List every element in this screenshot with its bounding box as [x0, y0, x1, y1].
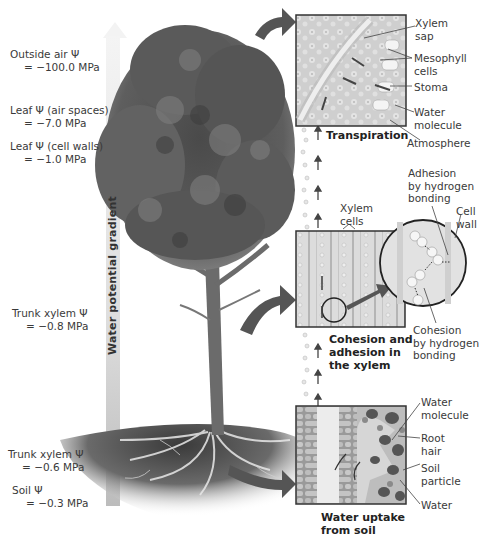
potential-trunk-xylem-upper: Trunk xylem Ψ = −0.8 MPa	[12, 307, 88, 333]
potential-name: Outside air Ψ	[10, 48, 79, 60]
water-potential-gradient-label: Water potential gradient	[106, 196, 119, 355]
label-soil-particle: Soil particle	[421, 462, 461, 487]
arrow-to-xylem-panel	[240, 285, 296, 335]
label-water-molecule-root: Water molecule	[421, 396, 469, 421]
label-adhesion: Adhesion by hydrogen bonding	[408, 167, 474, 205]
soil-illustration	[60, 424, 300, 527]
label-water-root: Water	[421, 499, 452, 512]
potential-value: = −0.6 MPa	[8, 461, 84, 474]
potential-value: = −100.0 MPa	[10, 61, 100, 74]
potential-name: Soil Ψ	[12, 484, 43, 496]
potential-leaf-cell-walls: Leaf Ψ (cell walls) = −1.0 MPa	[10, 140, 103, 166]
label-mesophyll-cells: Mesophyll cells	[414, 52, 467, 77]
potential-name: Trunk xylem Ψ	[12, 307, 88, 319]
tree-canopy	[95, 25, 295, 270]
arrow-to-leaf-panel	[255, 8, 296, 40]
potential-leaf-air-spaces: Leaf Ψ (air spaces) = −7.0 MPa	[10, 104, 109, 130]
label-cell-wall: Cell wall	[456, 205, 477, 230]
caption-transpiration: Transpiration	[326, 129, 408, 142]
hydrogen-bonding-magnified-circle	[380, 220, 466, 306]
label-xylem-cells: Xylem cells	[340, 202, 373, 227]
potential-value: = −0.8 MPa	[12, 320, 88, 333]
potential-value: = −0.3 MPa	[12, 497, 88, 510]
tree-trunk	[160, 245, 268, 435]
potential-name: Leaf Ψ (cell walls)	[10, 140, 103, 152]
label-cohesion: Cohesion by hydrogen bonding	[413, 324, 479, 362]
caption-water-uptake: Water uptake from soil	[321, 511, 405, 537]
caption-cohesion-adhesion: Cohesion and adhesion in the xylem	[329, 333, 413, 372]
root-panel-illustration	[296, 406, 406, 504]
potential-trunk-xylem-lower: Trunk xylem Ψ = −0.6 MPa	[8, 448, 84, 474]
potential-soil: Soil Ψ = −0.3 MPa	[12, 484, 88, 510]
label-root-hair: Root hair	[421, 432, 445, 457]
potential-value: = −1.0 MPa	[10, 153, 103, 166]
potential-name: Leaf Ψ (air spaces)	[10, 104, 109, 116]
potential-outside-air: Outside air Ψ = −100.0 MPa	[10, 48, 100, 74]
label-water-molecule-leaf: Water molecule	[414, 106, 462, 131]
potential-value: = −7.0 MPa	[10, 117, 109, 130]
label-stoma: Stoma	[414, 81, 448, 94]
label-atmosphere: Atmosphere	[407, 137, 471, 150]
label-xylem-sap: Xylem sap	[415, 17, 448, 42]
potential-name: Trunk xylem Ψ	[8, 448, 84, 460]
